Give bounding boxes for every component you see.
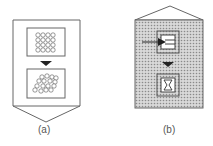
ordered-grid-box [27, 28, 65, 56]
caption-b: (b) [163, 124, 175, 135]
figure-canvas [0, 0, 213, 146]
caption-a: (a) [38, 124, 50, 135]
panel-b [135, 6, 203, 108]
disordered-box [27, 69, 65, 98]
panel-a [13, 20, 80, 122]
